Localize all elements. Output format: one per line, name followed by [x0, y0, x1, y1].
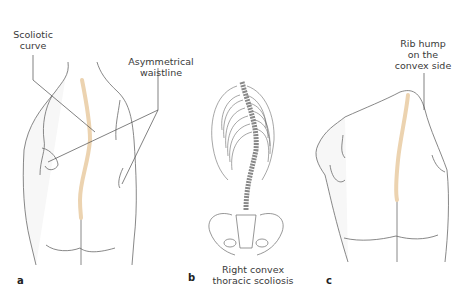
callout-line: waistline: [120, 67, 202, 78]
callout-line: Asymmetrical: [120, 56, 202, 67]
panel-letter-b: b: [188, 272, 195, 283]
caption-line: Right convex: [206, 264, 300, 275]
panel-b-ribcage: [212, 86, 274, 180]
callout-line: Rib hump: [390, 38, 456, 49]
callout-scoliotic-curve: Scoliotic curve: [8, 29, 58, 51]
panel-a-spine-highlight: [80, 80, 90, 218]
panel-a-torso: [23, 62, 136, 265]
callout-line: Scoliotic: [8, 29, 58, 40]
callout-rib-hump: Rib hump on the convex side: [390, 38, 456, 71]
callout-asymmetrical-waistline: Asymmetrical waistline: [120, 56, 202, 78]
panel-letter-c: c: [326, 275, 332, 286]
callout-line: curve: [8, 40, 58, 51]
panel-b-spine: [242, 82, 256, 210]
caption-right-convex-thoracic-scoliosis: Right convex thoracic scoliosis: [206, 264, 300, 286]
panel-letter-a: a: [17, 275, 24, 286]
panel-c-torso: [316, 91, 449, 262]
panel-b-pelvis: [209, 214, 283, 255]
callout-line: convex side: [390, 60, 456, 71]
callout-line: on the: [390, 49, 456, 60]
caption-line: thoracic scoliosis: [206, 275, 300, 286]
panel-c-spine-highlight: [396, 95, 408, 200]
